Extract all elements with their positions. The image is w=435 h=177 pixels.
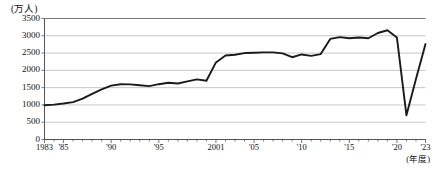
x-axis-tick-label: '23 — [406, 143, 435, 152]
x-axis-tick-label: '95 — [139, 143, 179, 152]
chart-container: (万人) 0500100015002000250030003500 1983'8… — [0, 0, 435, 177]
x-axis-tick-label: '90 — [91, 143, 131, 152]
x-axis-tick-label: '10 — [282, 143, 322, 152]
data-series-line — [45, 30, 426, 115]
gridlines — [42, 19, 426, 140]
x-axis-tick-label: '85 — [44, 143, 84, 152]
x-axis-tick-label: '05 — [234, 143, 274, 152]
x-axis-tick-label: 2001 — [196, 143, 236, 152]
figure-caption — [0, 170, 435, 177]
x-axis-labels: 1983'85'90'952001'05'10'15'20'23 — [0, 141, 435, 161]
x-axis-tick-label: '15 — [329, 143, 369, 152]
x-axis-unit-label: (年度) — [406, 152, 430, 164]
